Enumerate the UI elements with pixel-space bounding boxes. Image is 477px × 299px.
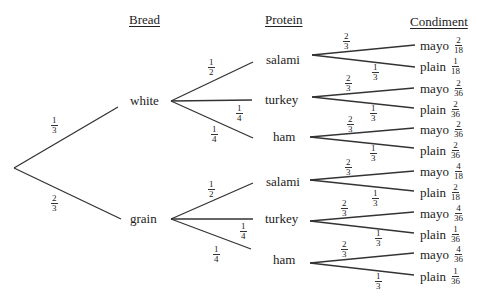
prob-plain-1: 13 <box>372 63 379 82</box>
header-bread: Bread <box>129 12 160 28</box>
node-white-turkey: turkey <box>265 93 298 107</box>
prob-grain-turkey: 1 4 <box>240 222 247 241</box>
leaf-7: mayo418 <box>420 162 464 181</box>
leaf-2: plain118 <box>420 57 461 76</box>
node-grain-salami: salami <box>266 175 300 189</box>
node-grain-turkey: turkey <box>265 212 298 226</box>
probability-tree-diagram: Bread Protein Condiment white grain 1 3 … <box>0 0 477 299</box>
prob-plain-5: 13 <box>375 229 382 248</box>
prob-mayo-2: 23 <box>345 74 352 93</box>
header-condiment: Condiment <box>410 14 468 30</box>
branch-grain-ham <box>171 219 251 249</box>
prob-grain: 2 3 <box>51 194 58 213</box>
branch-white <box>14 107 118 168</box>
leaf-9: mayo436 <box>420 204 464 223</box>
prob-white-turkey: 1 4 <box>236 104 243 123</box>
node-white-salami: salami <box>266 53 300 67</box>
leaf-6: plain236 <box>420 141 461 160</box>
prob-mayo-1: 23 <box>343 32 350 51</box>
prob-white: 1 3 <box>51 116 58 135</box>
prob-grain-ham: 1 4 <box>213 245 220 264</box>
prob-plain-3: 13 <box>370 144 377 163</box>
leaf-5: mayo236 <box>420 120 464 139</box>
prob-mayo-4: 23 <box>345 158 352 177</box>
node-white: white <box>130 94 159 108</box>
leaf-3: mayo236 <box>420 79 464 98</box>
prob-plain-2: 13 <box>370 104 377 123</box>
leaf-4: plain236 <box>420 100 461 119</box>
prob-mayo-5: 23 <box>341 199 348 218</box>
branch-white-turkey <box>171 100 252 101</box>
prob-plain-4: 13 <box>372 189 379 208</box>
branch-grain <box>14 168 121 219</box>
prob-mayo-6: 23 <box>341 240 348 259</box>
leaf-12: plain136 <box>420 267 461 286</box>
node-grain: grain <box>130 212 157 226</box>
node-white-ham: ham <box>273 130 295 144</box>
prob-mayo-3: 23 <box>347 115 354 134</box>
node-grain-ham: ham <box>273 253 295 267</box>
prob-white-salami: 1 2 <box>208 58 215 77</box>
header-protein: Protein <box>265 12 303 28</box>
prob-plain-6: 13 <box>375 272 382 291</box>
prob-white-ham: 1 4 <box>211 125 218 144</box>
tree-branches <box>0 0 477 299</box>
leaf-1: mayo218 <box>420 36 464 55</box>
leaf-11: mayo436 <box>420 245 464 264</box>
leaf-8: plain218 <box>420 183 461 202</box>
leaf-10: plain136 <box>420 225 461 244</box>
prob-grain-salami: 1 2 <box>208 180 215 199</box>
